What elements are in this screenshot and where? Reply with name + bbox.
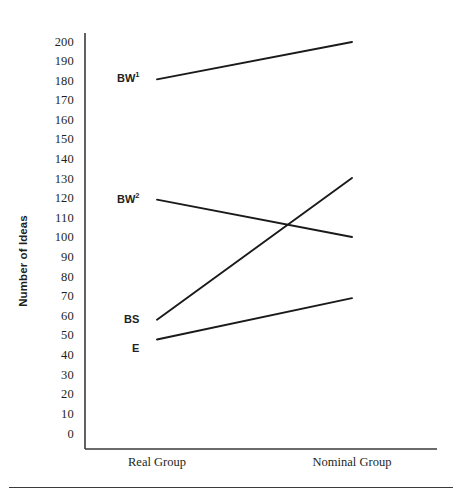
series-line-bw2 [157,200,352,237]
y-tick-170: 170 [40,94,74,106]
y-tick-110: 110 [40,212,74,224]
y-tick-100: 100 [40,231,74,243]
y-tick-10: 10 [40,408,74,420]
y-tick-160: 160 [40,114,74,126]
series-label-bw2: BW2 [117,193,140,205]
y-tick-50: 50 [40,329,74,341]
y-tick-200: 200 [40,36,74,48]
y-tick-40: 40 [40,349,74,361]
series-label-bw1-sup: 1 [135,70,139,79]
y-tick-80: 80 [40,271,74,283]
y-axis-title: Number of Ideas [17,201,29,321]
y-tick-60: 60 [40,310,74,322]
y-tick-0: 0 [40,428,74,440]
series-line-e [157,298,352,339]
y-tick-140: 140 [40,153,74,165]
series-label-bs: BS [124,313,139,325]
y-tick-20: 20 [40,388,74,400]
figure-container: Number of Ideas 200 190 180 170 160 150 … [0,0,461,503]
footer-divider [9,487,453,488]
y-tick-190: 190 [40,55,74,67]
y-tick-120: 120 [40,192,74,204]
series-line-bw1 [157,42,352,79]
y-tick-150: 150 [40,133,74,145]
series-label-bw2-text: BW [117,193,135,205]
y-tick-30: 30 [40,369,74,381]
series-label-e: E [132,342,139,354]
y-tick-130: 130 [40,173,74,185]
y-tick-90: 90 [40,251,74,263]
series-label-bw2-sup: 2 [135,191,139,200]
y-tick-180: 180 [40,75,74,87]
series-line-bs [157,178,352,320]
series-label-bw1: BW1 [117,72,140,84]
x-tick-real-group: Real Group [87,455,227,470]
y-tick-70: 70 [40,290,74,302]
x-tick-nominal-group: Nominal Group [282,455,422,470]
series-label-bw1-text: BW [117,72,135,84]
